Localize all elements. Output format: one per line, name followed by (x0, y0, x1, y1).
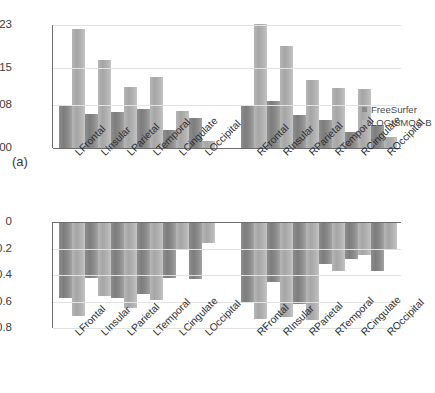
y-axis-tick-label: −0.8 (0, 322, 12, 334)
legend-a: FreeSurfer LOGISMOS-B (362, 103, 432, 129)
panel-tag-a: (a) (12, 155, 28, 168)
bar-freesurfer-rparietal (293, 222, 306, 304)
bar-logismos-b-rfrontal (254, 24, 267, 148)
y-axis-tick-label: −0.4 (0, 269, 12, 281)
bar-logismos-b-roccipital (384, 222, 397, 250)
y-axis-tick-label: 0.015 (0, 62, 12, 74)
bar-freesurfer-lfrontal (59, 106, 72, 148)
figure-container: 0.0000.0080.0150.023 LFrontalLInsularLPa… (0, 0, 435, 393)
bar-freesurfer-rinsular (267, 222, 280, 282)
gridline (53, 249, 401, 250)
bar-freesurfer-rfrontal (241, 105, 254, 148)
bar-logismos-b-lparietal (124, 222, 137, 308)
bar-logismos-b-rcingulate (358, 222, 371, 255)
y-axis-tick-label: 0.008 (0, 99, 12, 111)
y-axis-tick-label: −0.6 (0, 296, 12, 308)
bar-freesurfer-lparietal (111, 222, 124, 298)
x-axis-labels-b: LFrontalLInsularLParietalLTemporalLCingu… (52, 330, 412, 390)
axis-baseline (53, 222, 401, 223)
legend-label-logismos: LOGISMOS-B (371, 116, 432, 129)
bar-logismos-b-lfrontal (72, 29, 85, 148)
bar-logismos-b-linsular (98, 222, 111, 296)
bar-freesurfer-lcingulate (163, 222, 176, 278)
legend-swatch-icon-freesurfer (362, 107, 367, 112)
bar-logismos-b-lcingulate (176, 222, 189, 250)
y-axis-tick-label: 0.000 (0, 142, 12, 154)
gridline (53, 105, 401, 106)
bar-logismos-b-loccipital (202, 222, 215, 243)
bar-freesurfer-ltemporal (137, 222, 150, 294)
bar-freesurfer-lfrontal (59, 222, 72, 298)
gridline (53, 25, 401, 26)
panel-b: 0−0.2−0.4−0.6−0.8 LFrontalLInsularLParie… (0, 196, 435, 393)
gridline (53, 68, 401, 69)
legend-item-freesurfer: FreeSurfer (362, 103, 432, 116)
y-axis-tick-label: −0.2 (0, 243, 12, 255)
bar-logismos-b-rtemporal (332, 222, 345, 271)
bar-logismos-b-ltemporal (150, 222, 163, 300)
y-axis-tick-label: 0.023 (0, 19, 12, 31)
bar-freesurfer-rtemporal (319, 222, 332, 264)
gridline (53, 275, 401, 276)
gridline (53, 302, 401, 303)
bar-freesurfer-rcingulate (345, 222, 358, 259)
bar-freesurfer-rfrontal (241, 222, 254, 302)
bar-freesurfer-roccipital (371, 222, 384, 271)
y-axis-tick-label: 0 (0, 216, 12, 228)
legend-item-logismos: LOGISMOS-B (362, 116, 432, 129)
bar-freesurfer-loccipital (189, 222, 202, 279)
bar-logismos-b-rfrontal (254, 222, 267, 319)
bar-freesurfer-linsular (85, 222, 98, 278)
legend-label-freesurfer: FreeSurfer (371, 103, 417, 116)
legend-swatch-icon-logismos (362, 120, 367, 125)
panel-a: 0.0000.0080.0150.023 LFrontalLInsularLPa… (0, 0, 435, 196)
